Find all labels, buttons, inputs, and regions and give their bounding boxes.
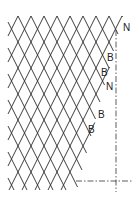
mesh-strand [8,100,53,190]
label-n-mid: N [106,81,113,92]
label-b-4: B [88,124,95,135]
mesh-diagram: N B B N B B [0,0,139,204]
mesh-strand [8,16,31,62]
mesh-strand [8,178,14,190]
mesh-strand [8,126,40,190]
label-b-1: B [107,52,114,63]
label-b-2: B [101,67,108,78]
mesh-strand [8,16,57,114]
diamond-mesh [8,16,123,190]
mesh-strand [18,16,87,153]
mesh-strand [96,16,114,51]
mesh-strand [8,48,78,187]
mesh-strand [8,74,66,190]
label-b-3: B [98,109,105,120]
label-n-top: N [123,22,130,33]
mesh-strand [8,16,70,140]
mesh-strand [70,16,105,85]
mesh-strand [109,16,118,34]
